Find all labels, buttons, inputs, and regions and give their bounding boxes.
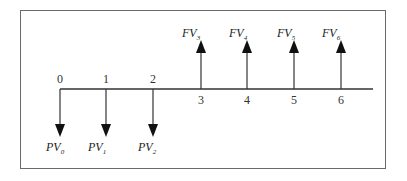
fv-label-5: FV5 <box>276 26 296 42</box>
fv-label-4: FV4 <box>228 26 248 42</box>
down-arrow-icon <box>101 89 111 137</box>
period-label-4: 4 <box>244 93 250 107</box>
period-label-1: 1 <box>103 72 109 86</box>
period-label-6: 6 <box>338 93 344 107</box>
inflow-arrows <box>196 40 346 89</box>
fv-label-6: FV6 <box>321 26 341 42</box>
pv-label-1: PV1 <box>87 140 106 156</box>
pv-label-2: PV2 <box>137 140 157 156</box>
period-label-2: 2 <box>150 72 156 86</box>
period-label-5: 5 <box>291 93 297 107</box>
down-arrow-icon <box>55 89 65 137</box>
pv-label-0: PV0 <box>45 140 65 156</box>
up-arrow-icon <box>289 40 299 89</box>
inflow-labels: FV3 FV4 FV5 FV6 <box>181 26 341 42</box>
down-arrow-icon <box>148 89 158 137</box>
up-arrow-icon <box>242 40 252 89</box>
period-label-3: 3 <box>198 93 204 107</box>
outflow-labels: PV0 PV1 PV2 <box>45 140 157 156</box>
period-label-0: 0 <box>57 72 63 86</box>
up-arrow-icon <box>336 40 346 89</box>
outflow-arrows <box>55 89 158 137</box>
fv-label-3: FV3 <box>181 26 201 42</box>
up-arrow-icon <box>196 40 206 89</box>
cash-flow-timeline: 0 1 2 3 4 5 6 PV0 PV1 PV2 <box>0 0 407 181</box>
